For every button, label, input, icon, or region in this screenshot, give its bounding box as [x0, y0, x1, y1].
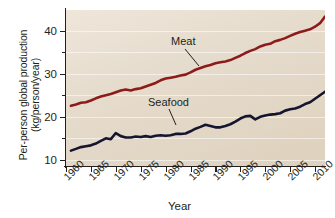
- y-tick-label-group: 40 30 20 10: [26, 0, 57, 218]
- plot-area: [66, 10, 325, 166]
- y-tick-35: [62, 52, 66, 53]
- series-layer: [66, 10, 325, 166]
- y-tick-label-20: 20: [26, 111, 57, 123]
- y-tick-30: [60, 74, 65, 75]
- seafood-series-label: Seafood: [148, 96, 189, 108]
- y-tick-20: [60, 117, 65, 118]
- series-line-seafood: [71, 92, 325, 151]
- y-tick-25: [62, 95, 66, 96]
- x-axis-title: Year: [0, 200, 331, 212]
- y-tick-15: [62, 138, 66, 139]
- y-tick-10: [60, 160, 65, 161]
- x-axis-title-text: Year: [168, 200, 191, 212]
- y-tick-label-30: 30: [26, 68, 57, 80]
- y-tick-40: [60, 31, 65, 32]
- series-line-meat: [71, 17, 325, 106]
- y-tick-label-10: 10: [26, 154, 57, 166]
- meat-series-label: Meat: [171, 35, 195, 47]
- y-axis-spine: [65, 8, 66, 168]
- y-tick-label-40: 40: [26, 25, 57, 37]
